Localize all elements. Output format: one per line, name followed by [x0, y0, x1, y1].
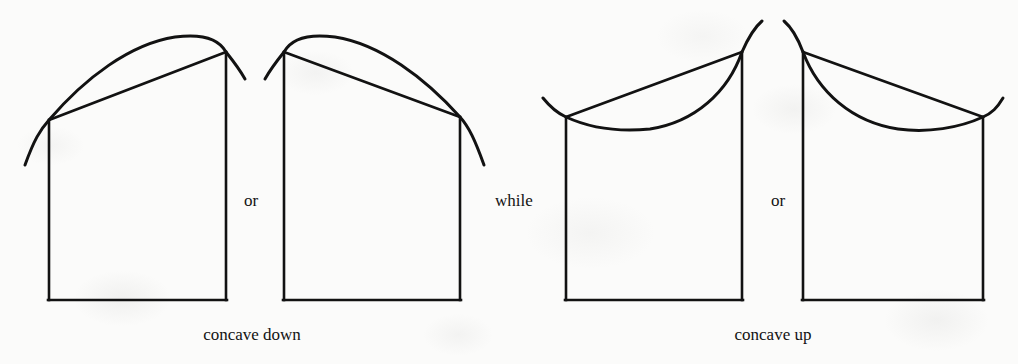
panel1-secant-chord: [49, 52, 226, 120]
panel2-curve-concave-down: [265, 36, 484, 165]
concavity-diagram: [0, 0, 1018, 364]
panel-concave-down-increasing: [25, 36, 245, 300]
connector-while: while: [495, 192, 533, 209]
panel-concave-up-increasing: [543, 21, 762, 300]
panel3-secant-chord: [566, 52, 742, 117]
panel-concave-down-decreasing: [265, 36, 484, 300]
panel4-secant-chord: [803, 52, 983, 117]
concavity-figure-page: or while or concave down concave up: [0, 0, 1018, 364]
panel1-curve-concave-down: [25, 36, 245, 165]
panel2-secant-chord: [284, 52, 460, 117]
caption-concave-up: concave up: [673, 326, 873, 343]
connector-or-left: or: [244, 192, 258, 209]
connector-or-right: or: [771, 192, 785, 209]
panel-concave-up-decreasing: [784, 21, 1003, 300]
caption-concave-down: concave down: [152, 326, 352, 343]
panel4-curve-concave-up: [784, 21, 1003, 130]
